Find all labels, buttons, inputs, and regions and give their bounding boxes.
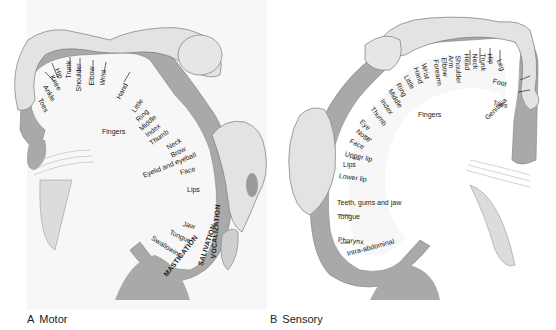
sensory-homunculus-hand: [365, 36, 401, 70]
caption-letter: A: [27, 313, 34, 325]
label-shoulder: Shoulder: [75, 63, 82, 91]
label-tongue: Tongue: [337, 213, 360, 220]
label-lips: Lips: [343, 161, 356, 168]
caption-motor: AMotor: [27, 313, 67, 325]
label-wrist: Wrist: [99, 69, 107, 85]
caption-sensory: BSensory: [270, 313, 323, 325]
label-teeth-gums-jaw: Teeth, gums and jaw: [337, 199, 401, 206]
caption-letter: B: [270, 313, 277, 325]
caption-title: Sensory: [282, 313, 322, 325]
label-neck: Neck: [472, 53, 480, 69]
label-shoulder: Shoulder: [455, 55, 463, 83]
label-fingers: Fingers: [418, 111, 441, 118]
motor-homunculus-mouth: [246, 173, 258, 197]
label-elbow: Elbow: [88, 66, 95, 85]
label-head: Head: [464, 53, 472, 70]
label-trunk: Trunk: [65, 61, 72, 79]
motor-homunculus-tongue: [221, 229, 238, 270]
label-trunk: Trunk: [480, 53, 488, 71]
label-fingers: Fingers: [102, 128, 125, 135]
label-hip: Hip: [487, 53, 495, 64]
motor-homunculus-hand: [178, 35, 222, 75]
homunculus-illustration: [0, 0, 556, 330]
caption-title: Motor: [39, 313, 67, 325]
label-arm: Arm: [448, 55, 455, 68]
label-lips: Lips: [187, 186, 200, 193]
